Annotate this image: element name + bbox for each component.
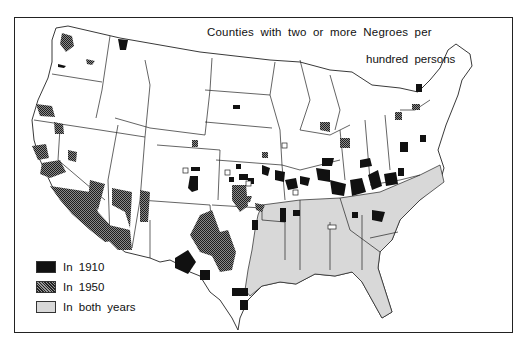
legend-item-1950: In 1950 (36, 277, 135, 297)
legend-label-both-years: In both years (63, 301, 135, 313)
legend-label-1950: In 1950 (63, 281, 104, 293)
map-title-line-1: Counties with two or more Negroes per (207, 26, 432, 38)
crosshatch-swatch-icon (36, 281, 56, 293)
light-gray-swatch-icon (36, 301, 56, 313)
legend-item-1910: In 1910 (36, 257, 135, 277)
map-legend: In 1910 In 1950 In both years (36, 257, 135, 317)
map-title-line-2: hundred persons (366, 53, 455, 65)
solid-black-swatch-icon (36, 261, 56, 273)
legend-item-both-years: In both years (36, 297, 135, 317)
legend-label-1910: In 1910 (63, 261, 104, 273)
